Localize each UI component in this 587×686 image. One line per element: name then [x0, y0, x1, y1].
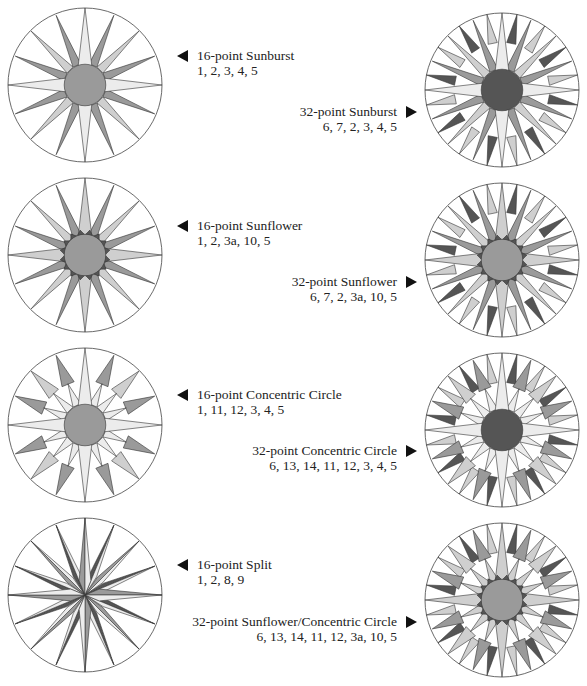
- pointer-left-icon: [177, 389, 188, 401]
- pointer-right-icon: [406, 106, 417, 118]
- caption-title: 16-point Sunburst: [197, 48, 294, 63]
- caption-16-point-sunflower: 16-point Sunflower1, 2, 3a, 10, 5: [197, 218, 302, 248]
- caption-title: 32-point Sunflower/Concentric Circle: [192, 614, 397, 629]
- caption-32-point-sunburst: 32-point Sunburst6, 7, 2, 3, 4, 5: [300, 104, 397, 134]
- caption-title: 32-point Sunflower: [292, 274, 397, 289]
- caption-16-point-sunburst: 16-point Sunburst1, 2, 3, 4, 5: [197, 48, 294, 78]
- caption-piece-codes: 6, 7, 2, 3a, 10, 5: [292, 289, 397, 304]
- caption-title: 16-point Sunflower: [197, 218, 302, 233]
- compass-diagram-16-point-sunflower: [5, 175, 165, 335]
- pointer-left-icon: [177, 220, 188, 232]
- compass-diagram-32-point-concentric-circle: [422, 350, 582, 510]
- pointer-right-icon: [406, 445, 417, 457]
- caption-piece-codes: 6, 13, 14, 11, 12, 3, 4, 5: [252, 458, 397, 473]
- compass-diagram-16-point-sunburst: [5, 5, 165, 165]
- caption-title: 32-point Concentric Circle: [252, 443, 397, 458]
- caption-32-point-concentric-circle: 32-point Concentric Circle6, 13, 14, 11,…: [252, 443, 397, 473]
- caption-title: 16-point Split: [197, 557, 272, 572]
- caption-piece-codes: 1, 2, 8, 9: [197, 572, 272, 587]
- caption-title: 32-point Sunburst: [300, 104, 397, 119]
- caption-title: 16-point Concentric Circle: [197, 387, 342, 402]
- pointer-right-icon: [406, 616, 417, 628]
- caption-piece-codes: 1, 11, 12, 3, 4, 5: [197, 402, 342, 417]
- compass-diagram-32-point-sunflower: [422, 180, 582, 340]
- caption-32-point-sunflower-concentric-circle: 32-point Sunflower/Concentric Circle6, 1…: [192, 614, 397, 644]
- caption-piece-codes: 1, 2, 3, 4, 5: [197, 63, 294, 78]
- compass-diagram-32-point-sunburst: [422, 10, 582, 170]
- caption-piece-codes: 6, 7, 2, 3, 4, 5: [300, 119, 397, 134]
- compass-diagram-32-point-sunflower-concentric-circle: [422, 520, 582, 680]
- compass-diagram-16-point-concentric-circle: [5, 345, 165, 505]
- pointer-left-icon: [177, 559, 188, 571]
- pointer-left-icon: [177, 50, 188, 62]
- compass-diagram-16-point-split: [5, 515, 165, 675]
- pointer-right-icon: [406, 276, 417, 288]
- caption-piece-codes: 6, 13, 14, 11, 12, 3a, 10, 5: [192, 629, 397, 644]
- caption-piece-codes: 1, 2, 3a, 10, 5: [197, 233, 302, 248]
- caption-32-point-sunflower: 32-point Sunflower6, 7, 2, 3a, 10, 5: [292, 274, 397, 304]
- caption-16-point-concentric-circle: 16-point Concentric Circle1, 11, 12, 3, …: [197, 387, 342, 417]
- caption-16-point-split: 16-point Split1, 2, 8, 9: [197, 557, 272, 587]
